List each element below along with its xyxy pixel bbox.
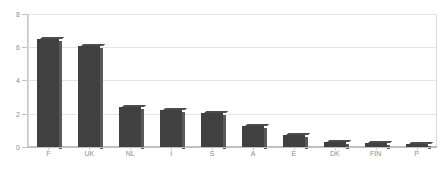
- x-tick-F: [48, 147, 49, 150]
- bar-slot-E: [273, 14, 314, 147]
- bar-A[interactable]: [242, 126, 264, 147]
- y-axis-label-8: 8: [10, 11, 20, 18]
- x-axis-label-NL: NL: [110, 150, 151, 158]
- x-axis-label-I: I: [151, 150, 192, 158]
- y-tick-8: [22, 14, 27, 15]
- bar-slot-UK: [69, 14, 110, 147]
- y-axis-label-0: 0: [10, 144, 20, 151]
- x-axis-labels: F UK NL I S A E DK FIN P: [28, 150, 437, 158]
- x-tick-P: [417, 147, 418, 150]
- y-tick-0: [22, 147, 27, 148]
- bar-F[interactable]: [37, 39, 59, 147]
- y-tick-6: [22, 47, 27, 48]
- x-tick-DK: [335, 147, 336, 150]
- bar-slot-I: [151, 14, 192, 147]
- x-axis-label-P: P: [396, 150, 437, 158]
- bar-I[interactable]: [160, 110, 182, 147]
- x-tick-NL: [130, 147, 131, 150]
- x-tick-UK: [89, 147, 90, 150]
- bar-slot-FIN: [355, 14, 396, 147]
- x-axis-label-DK: DK: [314, 150, 355, 158]
- x-axis-label-S: S: [192, 150, 233, 158]
- y-axis-label-2: 2: [10, 111, 20, 118]
- bar-slot-A: [233, 14, 274, 147]
- x-axis-label-FIN: FIN: [355, 150, 396, 158]
- bar-slot-DK: [314, 14, 355, 147]
- bar-S[interactable]: [201, 113, 223, 147]
- x-axis-label-E: E: [273, 150, 314, 158]
- y-axis-label-4: 4: [10, 77, 20, 84]
- x-tick-E: [294, 147, 295, 150]
- bar-E[interactable]: [283, 135, 305, 147]
- bar-NL[interactable]: [119, 107, 141, 147]
- y-tick-2: [22, 114, 27, 115]
- x-tick-FIN: [376, 147, 377, 150]
- bar-chart: 8 6 4 2 0: [0, 0, 447, 171]
- x-axis-label-F: F: [28, 150, 69, 158]
- x-tick-A: [253, 147, 254, 150]
- y-axis-label-6: 6: [10, 44, 20, 51]
- x-axis-label-A: A: [233, 150, 274, 158]
- bar-UK[interactable]: [78, 46, 100, 147]
- x-axis-label-UK: UK: [69, 150, 110, 158]
- bar-slot-S: [192, 14, 233, 147]
- bar-slot-NL: [110, 14, 151, 147]
- bar-series: [28, 14, 437, 147]
- x-tick-I: [171, 147, 172, 150]
- x-tick-S: [212, 147, 213, 150]
- bar-slot-F: [28, 14, 69, 147]
- y-tick-4: [22, 80, 27, 81]
- bar-slot-P: [396, 14, 437, 147]
